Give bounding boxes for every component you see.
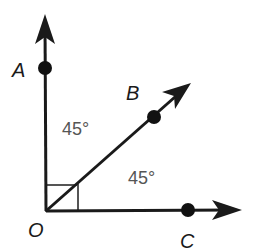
ray-ob [46,89,184,211]
point-b [147,110,161,124]
label-o: O [28,219,44,241]
point-a [38,61,52,75]
angle-label-boc: 45° [128,168,155,188]
label-b: B [126,82,139,104]
point-c [181,203,195,217]
angle-diagram: A B C O 45° 45° [0,0,257,252]
ray-oc [46,210,232,211]
label-a: A [11,59,25,81]
ray-oa [45,24,46,211]
label-c: C [180,230,195,252]
angle-label-aob: 45° [62,119,89,139]
